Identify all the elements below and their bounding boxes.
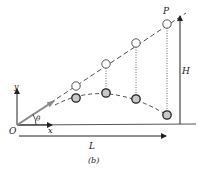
x-axis-label: x	[48, 126, 53, 135]
projectile-ball-4	[163, 111, 171, 119]
target-ball-1	[72, 82, 80, 90]
projectile-diagram: O x y θ P H L (b)	[0, 0, 208, 172]
origin-label: O	[9, 126, 17, 136]
projectile-ball-1	[72, 94, 80, 102]
length-label: L	[88, 141, 95, 151]
angle-label: θ	[36, 115, 41, 123]
projectile-ball-2	[102, 89, 110, 97]
target-ball-3	[132, 39, 140, 47]
y-axis-label: y	[13, 82, 19, 91]
projectile-ball-3	[132, 95, 140, 103]
target-point-label: P	[162, 6, 170, 16]
height-label: H	[181, 66, 190, 76]
figure-caption: (b)	[88, 156, 99, 165]
target-ball-2	[102, 60, 110, 68]
target-ball-4	[163, 20, 171, 28]
